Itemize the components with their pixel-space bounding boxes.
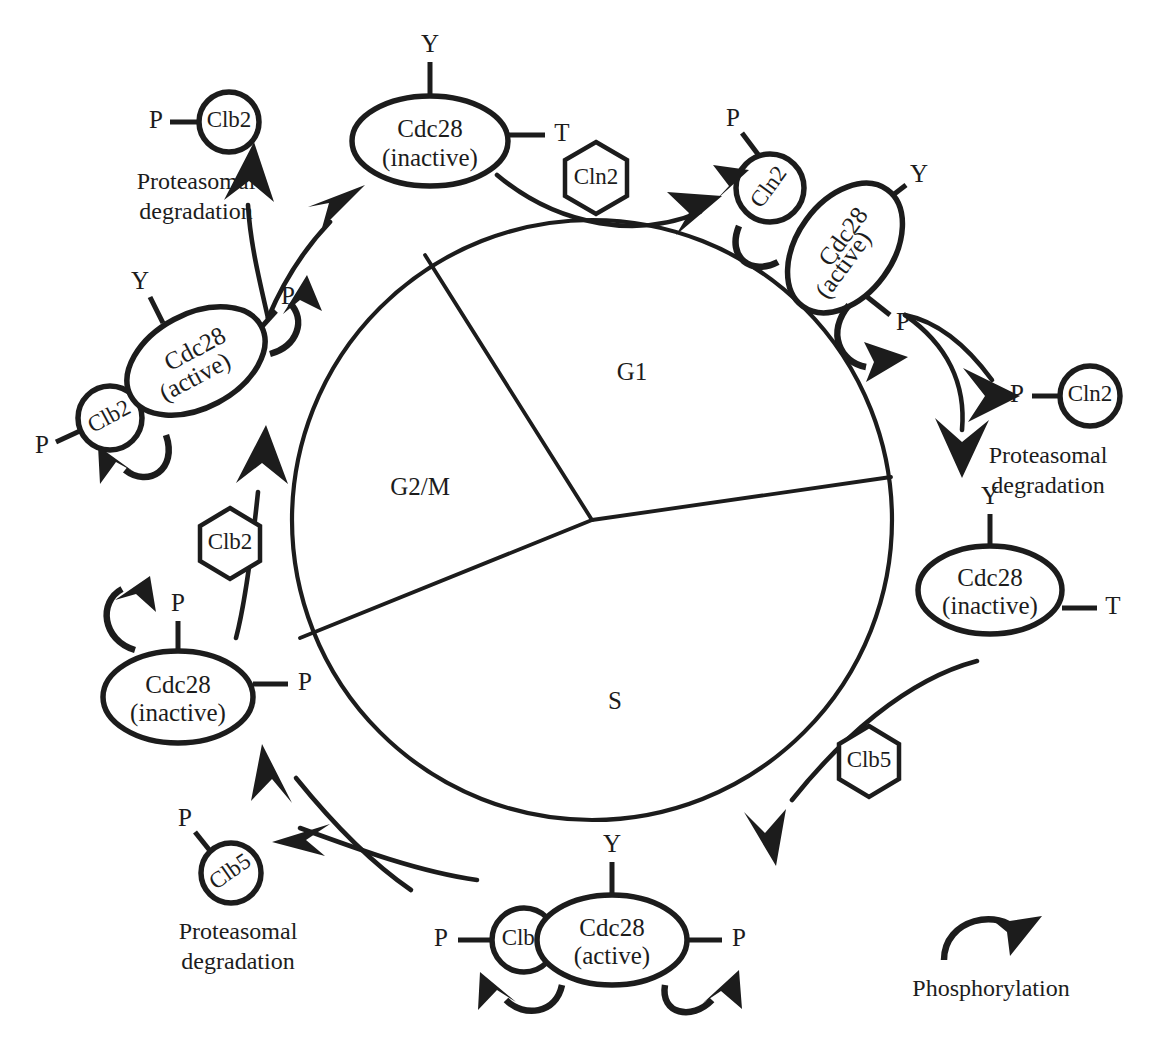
caption-deg-clb2-line2: degradation xyxy=(139,198,252,224)
hexagon-label-clb2: Clb2 xyxy=(208,529,253,554)
phosphorylation-arc-cln2 xyxy=(736,226,778,267)
residue-label-t-right: T xyxy=(1105,592,1120,619)
phase-divider-g1-s xyxy=(592,477,891,520)
hexagon-label-cln2: Cln2 xyxy=(574,164,619,189)
tag-label-p-clb5: P xyxy=(434,924,448,951)
phosphorylation-arc-clb5-left xyxy=(506,985,562,1011)
bond-residue-p-cln2 xyxy=(866,296,890,315)
residue-label-y-top: Y xyxy=(421,30,439,57)
diagram-canvas: G1 G2/M S Cln2 Clb5 xyxy=(0,0,1161,1058)
caption-deg-cln2-line2: degradation xyxy=(991,472,1104,498)
complex-cln2-cdc28-active[interactable]: P Cln2 Cdc28 (active) Y P xyxy=(713,104,928,382)
tag-label-p-clb2: P xyxy=(35,431,49,458)
degradation-clb2[interactable]: P Clb2 Proteasomal degradation xyxy=(137,92,259,224)
legend-phosphorylation: Phosphorylation xyxy=(912,916,1069,1001)
degradation-clb5[interactable]: P Clb5 Proteasomal degradation xyxy=(178,804,298,974)
complex-cdc28-inactive-right[interactable]: Cdc28 (inactive) Y T xyxy=(918,482,1121,634)
label-state-right: (inactive) xyxy=(942,592,1038,620)
residue-label-p-cln2: P xyxy=(896,308,910,335)
cycle-wheel: G1 G2/M S xyxy=(292,220,892,820)
label-state-top: (inactive) xyxy=(382,144,478,172)
cyclin-hexagon-cln2[interactable]: Cln2 xyxy=(565,142,627,214)
label-state-clb5: (active) xyxy=(574,942,650,970)
arrowhead-g2m-entry xyxy=(236,425,288,484)
cyclin-hexagon-clb2[interactable]: Clb2 xyxy=(200,508,260,579)
arrowhead-clb5-to-inactive xyxy=(251,744,292,803)
bond-tag-p-cln2 xyxy=(742,133,760,157)
residue-label-p-clb5: P xyxy=(732,924,746,951)
caption-deg-cln2-line1: Proteasomal xyxy=(989,442,1108,468)
complex-cdc28-inactive-left[interactable]: Cdc28 (inactive) P P xyxy=(103,576,312,743)
residue-label-p-left-right: P xyxy=(298,668,312,695)
tag-label-p-deg-clb2: P xyxy=(149,106,163,133)
tag-label-p-deg-clb5: P xyxy=(178,804,192,831)
label-state-left: (inactive) xyxy=(130,699,226,727)
residue-label-y-cln2: Y xyxy=(910,160,928,187)
label-kinase-clb5: Cdc28 xyxy=(579,914,644,941)
tag-label-p-deg-cln2: P xyxy=(1010,380,1024,407)
cyclin-hexagon-clb5[interactable]: Clb5 xyxy=(839,726,899,797)
complex-clb5-cdc28-active[interactable]: P Clb5 Cdc28 (active) Y P xyxy=(434,830,746,1012)
caption-deg-clb5-line1: Proteasomal xyxy=(179,918,298,944)
complex-cdc28-inactive-top[interactable]: Cdc28 (inactive) Y T xyxy=(352,30,570,186)
arrow-path-clb2-to-inactive xyxy=(268,222,330,318)
degradation-cln2[interactable]: P Cln2 Proteasomal degradation xyxy=(989,366,1120,498)
residue-label-y-clb2: Y xyxy=(131,267,149,294)
phase-label-g2m: G2/M xyxy=(390,473,450,500)
hexagon-label-clb5: Clb5 xyxy=(847,747,892,772)
phosphorylation-arc-clb5-right xyxy=(664,985,712,1012)
residue-label-y-clb5: Y xyxy=(603,830,621,857)
label-kinase-top: Cdc28 xyxy=(397,115,462,142)
arrowhead-clb2-to-inactive xyxy=(308,185,365,228)
residue-label-p-left-top: P xyxy=(171,589,185,616)
label-kinase-right: Cdc28 xyxy=(957,564,1022,591)
phase-label-s: S xyxy=(608,687,622,714)
phase-label-g1: G1 xyxy=(617,358,648,385)
phase-divider-g2m-s xyxy=(300,520,592,638)
phase-divider-g1-g2m xyxy=(425,255,592,520)
arrowhead-s-entry xyxy=(744,809,786,866)
residue-label-t-top: T xyxy=(554,119,569,146)
label-deg-clb2: Clb2 xyxy=(207,107,252,132)
legend-arrowhead xyxy=(996,916,1042,956)
arrow-path-cln2-exit xyxy=(905,315,963,430)
bond-tag-p-deg-clb5 xyxy=(195,832,211,852)
phosphorylation-arrowhead-cln2-p xyxy=(864,342,908,382)
label-kinase-left: Cdc28 xyxy=(145,671,210,698)
phosphorylation-arrowhead-left xyxy=(115,576,156,612)
phosphorylation-arc-cln2-p xyxy=(837,305,866,367)
tag-label-p-cln2: P xyxy=(726,104,740,131)
legend-label: Phosphorylation xyxy=(912,975,1069,1001)
caption-deg-clb5-line2: degradation xyxy=(181,948,294,974)
label-deg-cln2: Cln2 xyxy=(1068,381,1113,406)
arrowhead-g1-entry xyxy=(667,192,722,235)
caption-deg-clb2-line1: Proteasomal xyxy=(137,168,256,194)
bond-tag-p-clb2 xyxy=(56,430,82,442)
bond-residue-y-clb2 xyxy=(150,297,163,323)
cell-cycle-diagram: G1 G2/M S Cln2 Clb5 xyxy=(0,0,1161,1058)
